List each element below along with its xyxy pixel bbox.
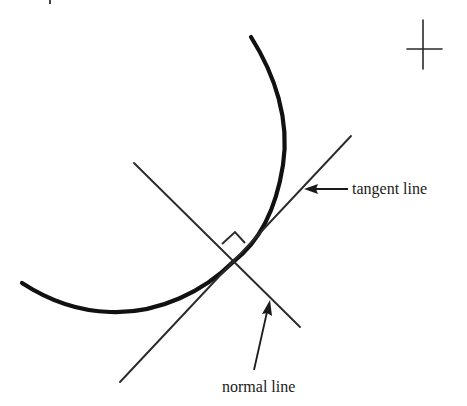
- normal-line: [134, 163, 300, 327]
- normal-arrow-icon: [254, 300, 272, 370]
- tangent-line: [120, 136, 351, 382]
- crosshair-icon: [407, 20, 442, 69]
- tangent-arrow-icon: [304, 184, 348, 194]
- normal-line-label: normal line: [222, 378, 295, 395]
- tangent-normal-diagram: tangent line normal line: [0, 0, 467, 406]
- curve: [22, 37, 285, 312]
- right-angle-marker: [222, 232, 245, 244]
- tangent-line-label: tangent line: [352, 180, 427, 198]
